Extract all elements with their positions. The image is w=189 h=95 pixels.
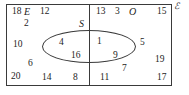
squares-set-ellipse (42, 30, 136, 63)
number-4: 4 (59, 38, 64, 48)
number-8: 8 (73, 73, 78, 83)
even-set-label: E (24, 7, 30, 17)
number-13: 13 (96, 7, 106, 17)
venn-diagram-figure: ℰ EOS1812210620148416191331551971117 (0, 0, 189, 95)
number-20: 20 (11, 72, 21, 82)
number-10: 10 (13, 40, 23, 50)
number-18: 18 (12, 7, 22, 17)
number-9: 9 (113, 51, 118, 61)
number-1: 1 (97, 37, 102, 47)
number-19: 19 (155, 55, 165, 65)
number-3: 3 (115, 7, 120, 17)
number-17: 17 (157, 73, 167, 83)
universal-set-symbol: ℰ (174, 2, 179, 11)
number-7: 7 (122, 64, 127, 74)
number-12: 12 (40, 7, 50, 17)
number-6: 6 (28, 59, 33, 69)
number-16: 16 (71, 51, 81, 61)
number-2: 2 (24, 19, 29, 29)
number-5: 5 (140, 38, 145, 48)
number-11: 11 (100, 73, 109, 83)
odd-set-label: O (129, 7, 136, 17)
number-14: 14 (42, 73, 52, 83)
number-15: 15 (157, 7, 167, 17)
squares-set-label: S (79, 19, 84, 29)
